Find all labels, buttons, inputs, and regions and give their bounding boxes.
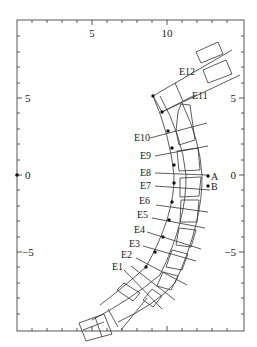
- bottom-axis-ticks: [32, 326, 227, 331]
- bottom-block-line: [83, 322, 104, 330]
- label-e6: E6: [139, 195, 150, 206]
- right-tick-label-0: 0: [231, 169, 237, 181]
- top-axis-ticks: [32, 20, 227, 25]
- label-e3: E3: [129, 238, 140, 249]
- bottom-block-divider-1: [95, 317, 102, 337]
- e12-e11-connector-1: [153, 96, 162, 112]
- label-e5: E5: [137, 209, 148, 220]
- label-e2: E2: [121, 249, 132, 260]
- left-tick-label-minus5: −5: [22, 246, 34, 258]
- arc-segment-blocks: [117, 148, 201, 307]
- element-leader-lines: [124, 96, 210, 309]
- label-e8: E8: [140, 167, 151, 178]
- bottom-block-divider-2: [108, 309, 118, 327]
- top-block-2: [203, 60, 232, 83]
- label-e11: E11: [192, 90, 208, 101]
- label-e10: E10: [134, 132, 150, 143]
- label-e1: E1: [112, 261, 123, 272]
- label-e12: E12: [179, 66, 195, 77]
- label-e4: E4: [134, 224, 145, 235]
- right-tick-label-minus5: −5: [224, 246, 236, 258]
- label-e7: E7: [140, 180, 151, 191]
- inner-arc: [100, 96, 174, 305]
- beamline-diagram: 5 10 5 0 −5 5 0 −5: [0, 0, 257, 347]
- top-tick-label-5: 5: [89, 27, 95, 39]
- point-b-marker: [206, 184, 209, 187]
- point-b-label: B: [211, 181, 218, 192]
- left-tick-label-0: 0: [25, 169, 31, 181]
- left-tick-label-5: 5: [25, 92, 31, 104]
- label-e9: E9: [140, 150, 151, 161]
- right-axis-ticks: [239, 36, 244, 314]
- top-block-1: [196, 42, 223, 63]
- bottom-diag-line: [121, 298, 147, 330]
- top-tick-label-10: 10: [162, 27, 174, 39]
- right-tick-label-5: 5: [231, 92, 237, 104]
- e12-e11-connector-2: [175, 83, 183, 101]
- point-a-marker: [206, 174, 209, 177]
- origin-dot: [15, 173, 19, 177]
- outer-arc: [118, 103, 202, 322]
